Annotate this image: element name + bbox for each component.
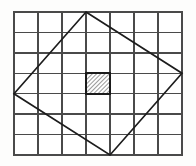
hatched-unit-square [86, 73, 110, 93]
hatched-cell-fill [86, 73, 110, 93]
geometry-diagram [0, 0, 196, 166]
figure-container [0, 0, 196, 166]
